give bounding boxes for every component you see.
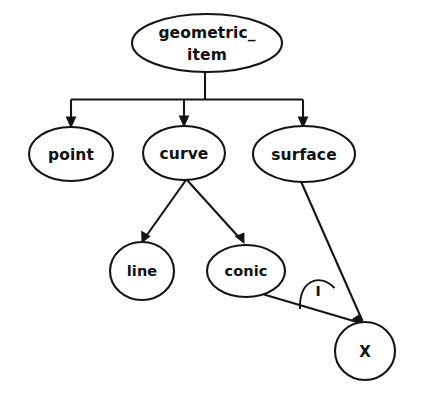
node-curve-label: curve xyxy=(160,145,209,163)
node-conic-label: conic xyxy=(225,263,268,279)
node-x[interactable]: X xyxy=(335,322,395,380)
edge-group-curve-children xyxy=(141,180,244,244)
node-line-label: line xyxy=(127,263,158,279)
node-point-label: point xyxy=(48,146,94,164)
node-conic[interactable]: conic xyxy=(207,245,285,297)
edge-surface-x xyxy=(301,182,363,322)
node-curve[interactable]: curve xyxy=(143,126,225,180)
node-surface-label: surface xyxy=(271,146,337,164)
node-line[interactable]: line xyxy=(110,242,174,300)
node-geometric-item-label-line2: item xyxy=(187,46,227,64)
node-geometric-item-label-line1: geometric_ xyxy=(158,24,255,42)
node-x-label: X xyxy=(359,343,371,361)
node-surface[interactable]: surface xyxy=(253,126,355,182)
intersection-arc-label: I xyxy=(315,283,320,299)
edge-curve-line xyxy=(146,180,187,237)
intersection-arc-annotation: I xyxy=(300,280,335,309)
node-geometric-item[interactable]: geometric_ item xyxy=(132,14,282,72)
geometric-item-hierarchy-diagram: I geometric_ item point curve surface li… xyxy=(0,0,422,407)
edge-curve-conic xyxy=(187,180,240,238)
edge-group-x-inputs xyxy=(264,182,364,326)
edge-conic-x xyxy=(264,295,357,323)
edge-group-root-children xyxy=(66,72,309,129)
diagram-canvas: I geometric_ item point curve surface li… xyxy=(0,0,422,407)
node-point[interactable]: point xyxy=(29,127,113,181)
